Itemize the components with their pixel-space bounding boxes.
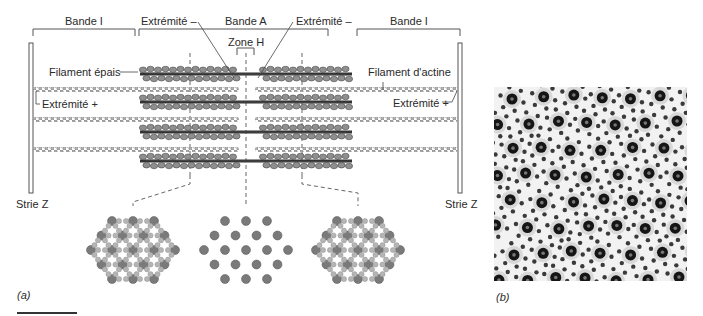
label-thick-filament: Filament épais <box>49 66 121 78</box>
electron-micrograph <box>494 87 687 281</box>
label-minus-end-right: Extrémité – <box>296 15 352 27</box>
panel-a-label: (a) <box>17 289 30 301</box>
cross-sections <box>87 217 405 284</box>
label-z-line-left: Strie Z <box>16 198 48 210</box>
label-zone-h: Zone H <box>228 36 264 48</box>
label-band-i-left: Bande I <box>65 15 103 27</box>
label-actin-filament: Filament d'actine <box>368 66 451 78</box>
label-plus-end-right: Extrémité + <box>393 97 449 109</box>
z-line-left <box>29 43 33 193</box>
scale-bar <box>17 312 77 314</box>
label-z-line-right: Strie Z <box>445 198 477 210</box>
label-minus-end-left: Extrémité – <box>141 15 197 27</box>
z-line-right <box>458 43 462 193</box>
label-band-a: Bande A <box>225 15 267 27</box>
panel-b-label: (b) <box>496 291 509 303</box>
label-band-i-right: Bande I <box>390 15 428 27</box>
label-plus-end-left: Extrémité + <box>42 98 98 110</box>
